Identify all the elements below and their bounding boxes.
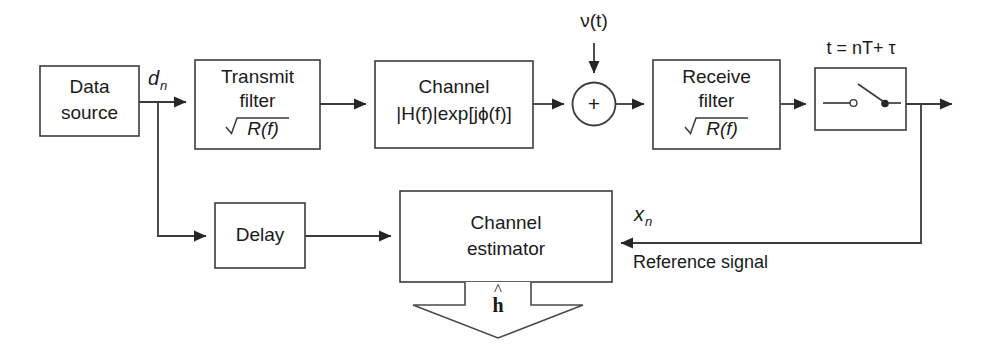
channel-transfer-function: |H(f)|exp[jϕ(f)] bbox=[396, 103, 512, 124]
block-diagram-canvas: Data source Transmit filter R(f) Channel… bbox=[0, 0, 982, 346]
estimate-output-hat-accent: ^ bbox=[494, 280, 502, 299]
label-data-symbols: d n bbox=[148, 67, 167, 93]
transmit-filter-label-line2: filter bbox=[240, 90, 277, 111]
reference-signal-label: Reference signal bbox=[633, 252, 768, 272]
block-receive-filter[interactable]: Receive filter R(f) bbox=[653, 60, 780, 149]
sampler-timing-label: t = nT+ τ bbox=[826, 38, 895, 58]
block-data-source[interactable]: Data source bbox=[40, 66, 139, 136]
summing-junction[interactable]: + bbox=[573, 83, 616, 126]
sampler-box[interactable] bbox=[815, 68, 906, 130]
data-source-label-line2: source bbox=[61, 102, 118, 123]
channel-label-line1: Channel bbox=[419, 76, 490, 97]
sampled-output-base: x bbox=[633, 203, 645, 225]
data-symbol-base: d bbox=[148, 67, 160, 89]
receive-filter-radicand: R(f) bbox=[706, 118, 738, 139]
data-source-label-line1: Data bbox=[69, 76, 110, 97]
summing-junction-plus-symbol: + bbox=[588, 92, 600, 115]
transmit-filter-radicand: R(f) bbox=[247, 118, 279, 139]
receive-filter-label-line1: Receive bbox=[682, 66, 751, 87]
estimator-output-block-arrow: h ^ bbox=[413, 280, 583, 338]
channel-estimator-box[interactable] bbox=[400, 191, 612, 282]
signal-chain-diagram: Data source Transmit filter R(f) Channel… bbox=[0, 0, 982, 346]
data-symbol-subscript: n bbox=[160, 78, 167, 93]
block-channel-estimator[interactable]: Channel estimator bbox=[400, 191, 612, 282]
sampler-closed-contact-icon bbox=[881, 100, 889, 108]
receive-filter-label-line2: filter bbox=[699, 90, 736, 111]
block-sampler[interactable]: t = nT+ τ bbox=[815, 38, 906, 130]
block-transmit-filter[interactable]: Transmit filter R(f) bbox=[195, 60, 320, 149]
block-delay[interactable]: Delay bbox=[215, 203, 305, 268]
sampler-open-contact-icon bbox=[850, 100, 857, 107]
label-sampled-output: x n bbox=[633, 203, 652, 229]
noise-signal-label: ν(t) bbox=[580, 10, 607, 31]
block-channel[interactable]: Channel |H(f)|exp[jϕ(f)] bbox=[375, 61, 533, 148]
delay-label: Delay bbox=[236, 224, 285, 245]
channel-estimator-label-line1: Channel bbox=[471, 212, 542, 233]
transmit-filter-label-line1: Transmit bbox=[221, 66, 295, 87]
channel-estimator-label-line2: estimator bbox=[467, 238, 546, 259]
sampled-output-subscript: n bbox=[645, 214, 652, 229]
